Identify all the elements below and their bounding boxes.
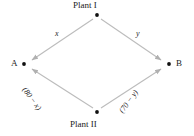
- edge-label-plant1-a: x: [55, 30, 59, 38]
- diagram-canvas: [0, 0, 194, 136]
- node-dot-dest-a: [22, 62, 26, 66]
- node-label-dest-a: A: [11, 59, 18, 68]
- edge-plant1-b-line: [101, 19, 161, 60]
- node-label-dest-b: B: [176, 59, 182, 68]
- edge-label-plant1-b: y: [136, 30, 140, 38]
- node-label-plant-1: Plant I: [73, 1, 97, 10]
- edge-plant2-a-line: [32, 69, 93, 108]
- node-dot-plant-1: [95, 13, 99, 17]
- node-dot-plant-2: [95, 110, 99, 114]
- node-dot-dest-b: [167, 62, 171, 66]
- edge-plant1-a-line: [32, 19, 93, 60]
- node-label-plant-2: Plant II: [70, 120, 97, 129]
- transportation-network-diagram: Plant I A B Plant II x y (80 − x) (70 − …: [0, 0, 194, 136]
